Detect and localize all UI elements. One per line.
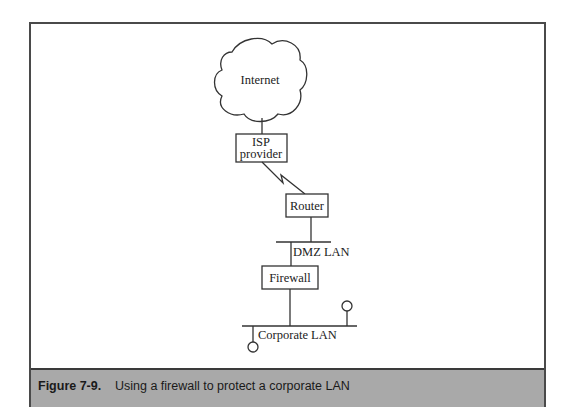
internet-label: Internet bbox=[241, 73, 280, 87]
isp-label-line2: provider bbox=[240, 147, 283, 161]
firewall-label: Firewall bbox=[269, 271, 311, 285]
router-label: Router bbox=[290, 199, 325, 213]
network-diagram: Internet ISP provider Router DMZ LAN Fir… bbox=[0, 0, 571, 413]
host-node-icon bbox=[248, 342, 258, 352]
host-node-icon bbox=[342, 301, 352, 311]
corporate-lan-label: Corporate LAN bbox=[258, 328, 337, 342]
dmz-lan-label: DMZ LAN bbox=[293, 245, 350, 259]
wan-link-icon bbox=[262, 162, 305, 194]
